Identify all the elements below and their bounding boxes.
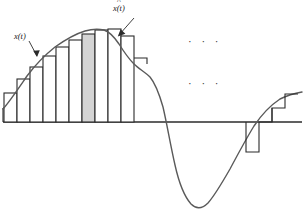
sample-hold-bar-group bbox=[4, 29, 134, 122]
annotation-arrow-xt bbox=[29, 41, 40, 57]
sample-hold-bar bbox=[17, 79, 30, 122]
sample-hold-bar bbox=[30, 67, 43, 122]
hat-accent-mark: ^ bbox=[117, 0, 121, 6]
figure-container: x(t) ^x(t) · · · · · · bbox=[0, 0, 305, 213]
trailing-hold-step bbox=[134, 58, 147, 64]
right-staircase-steps bbox=[246, 94, 298, 152]
sample-hold-bar bbox=[43, 56, 56, 122]
label-sampled-signal: ^x(t) bbox=[113, 3, 125, 13]
signal-sampling-figure bbox=[0, 0, 305, 213]
sample-hold-bar bbox=[56, 47, 69, 122]
annotation-arrow-xhat bbox=[118, 18, 134, 36]
ellipsis-upper: · · · bbox=[188, 35, 222, 47]
ellipsis-lower: · · · bbox=[188, 77, 222, 89]
sample-hold-bar-highlighted bbox=[82, 34, 95, 122]
sample-hold-bar bbox=[95, 30, 108, 122]
sample-hold-bar bbox=[69, 40, 82, 122]
label-continuous-signal: x(t) bbox=[14, 31, 26, 41]
sample-hold-bar bbox=[4, 93, 17, 122]
